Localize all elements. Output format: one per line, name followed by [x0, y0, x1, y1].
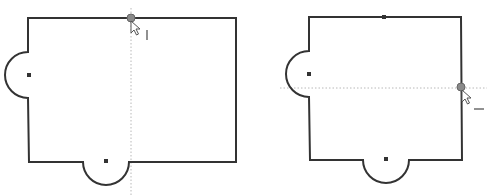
- left-sketch-panel: [5, 8, 236, 196]
- arc-center-marker-bottom: [384, 157, 388, 161]
- sketch-diagram: [0, 0, 487, 196]
- right-sketch-profile[interactable]: [286, 17, 462, 183]
- left-sketch-profile[interactable]: [5, 18, 236, 185]
- arrow-pointer-icon: [462, 90, 471, 104]
- arrow-pointer-icon: [131, 21, 140, 35]
- snap-point[interactable]: [457, 83, 465, 91]
- right-sketch-panel: [280, 15, 487, 183]
- arc-center-marker-left: [307, 72, 311, 76]
- arc-center-marker-bottom: [104, 159, 108, 163]
- edge-midpoint-marker-top: [382, 15, 386, 19]
- arc-center-marker-left: [27, 73, 31, 77]
